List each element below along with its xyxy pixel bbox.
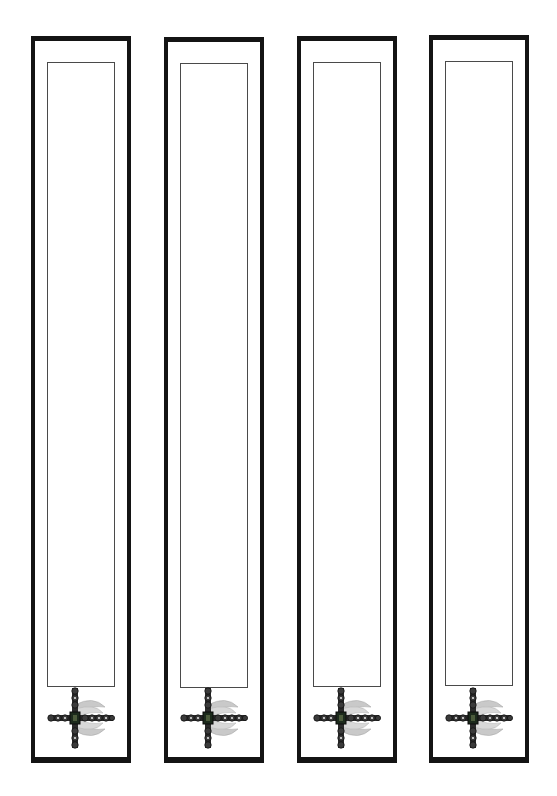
bookmark-text-area: [445, 61, 513, 686]
bookmark-text-area: [47, 62, 115, 687]
bookmark-2: [164, 37, 264, 763]
bookmark-text-area: [180, 63, 248, 688]
winged-cross-icon: [443, 685, 515, 751]
bookmark-text-area: [313, 62, 381, 687]
bookmark-3: [297, 36, 397, 763]
bookmark-4: [429, 35, 529, 763]
winged-cross-icon: [45, 685, 117, 751]
winged-cross-icon: [311, 685, 383, 751]
winged-cross-icon: [178, 685, 250, 751]
bookmark-1: [31, 36, 131, 763]
